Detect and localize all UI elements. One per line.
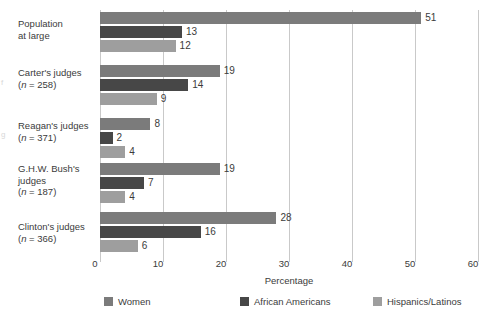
bar-women-group-2 [100, 118, 150, 130]
bar-value-african-group-0: 13 [186, 26, 197, 38]
legend-label-african-americans: African Americans [254, 296, 331, 307]
plot-area: 51131219149824197428166 [100, 10, 478, 256]
legend-item-hispanics-latinos[interactable]: Hispanics/Latinos [373, 296, 461, 307]
bar-women-group-4 [100, 212, 276, 224]
x-tick-label-60: 60 [468, 258, 479, 269]
legend-item-women[interactable]: Women [104, 296, 151, 307]
category-line: judges [18, 175, 96, 187]
bar-value-hispanic-group-0: 12 [180, 40, 191, 52]
bar-value-women-group-2: 8 [154, 118, 160, 130]
category-n-value: = 366 [29, 233, 53, 244]
legend-swatch-women [104, 297, 113, 306]
bar-hispanic-group-3 [100, 191, 125, 203]
category-n-value: = 187 [29, 186, 53, 197]
bar-value-women-group-4: 28 [280, 212, 291, 224]
bar-value-women-group-1: 19 [224, 65, 235, 77]
bar-value-women-group-0: 51 [425, 12, 436, 24]
category-n-value: = 371 [29, 132, 53, 143]
bar-hispanic-group-4 [100, 240, 138, 252]
x-tick-label-10: 10 [153, 258, 164, 269]
bar-value-hispanic-group-3: 4 [129, 191, 135, 203]
bar-hispanic-group-0 [100, 40, 176, 52]
category-label-population: Population at large [18, 18, 96, 41]
x-tick-label-20: 20 [216, 258, 227, 269]
legend: Women African Americans Hispanics/Latino… [0, 296, 488, 310]
bar-african-group-2 [100, 132, 113, 144]
category-line: Population [18, 18, 96, 30]
legend-item-african-americans[interactable]: African Americans [240, 296, 331, 307]
bar-value-african-group-3: 7 [148, 177, 154, 189]
bar-african-group-0 [100, 26, 182, 38]
category-line: G.H.W. Bush's [18, 163, 96, 175]
x-tick-label-30: 30 [279, 258, 290, 269]
category-line: Reagan's judges [18, 120, 96, 132]
edge-artifact-mark-2: g [1, 130, 5, 139]
x-tick-label-0: 0 [92, 258, 97, 269]
gridline-60 [478, 10, 479, 256]
legend-label-women: Women [118, 296, 151, 307]
bar-value-hispanic-group-2: 4 [129, 146, 135, 158]
gridline-50 [415, 10, 416, 256]
legend-swatch-african-americans [240, 297, 249, 306]
category-label-clinton: Clinton's judges (n = 366) [18, 221, 96, 244]
bar-women-group-1 [100, 65, 220, 77]
gridline-40 [352, 10, 353, 256]
category-n-label: (n = 371) [18, 132, 96, 144]
bar-value-hispanic-group-1: 9 [161, 93, 167, 105]
category-label-bush: G.H.W. Bush's judges (n = 187) [18, 163, 96, 198]
bar-women-group-3 [100, 163, 220, 175]
edge-artifact-mark-1: f [1, 78, 3, 87]
x-tick-mark-0 [100, 256, 101, 262]
bar-value-african-group-4: 16 [205, 226, 216, 238]
category-line: at large [18, 30, 96, 42]
legend-label-hispanics-latinos: Hispanics/Latinos [387, 296, 461, 307]
category-n-label: (n = 187) [18, 186, 96, 198]
category-n-label: (n = 366) [18, 233, 96, 245]
x-tick-label-40: 40 [342, 258, 353, 269]
bar-value-women-group-3: 19 [224, 163, 235, 175]
category-n-label: (n = 258) [18, 79, 96, 91]
category-line: Carter's judges [18, 67, 96, 79]
bar-women-group-0 [100, 12, 421, 24]
bar-value-hispanic-group-4: 6 [142, 240, 148, 252]
x-tick-label-50: 50 [405, 258, 416, 269]
bar-chart: f g Population at large Carter's judges … [0, 0, 488, 327]
bar-african-group-4 [100, 226, 201, 238]
bar-african-group-1 [100, 79, 188, 91]
bar-hispanic-group-2 [100, 146, 125, 158]
bar-value-african-group-1: 14 [192, 79, 203, 91]
x-axis-title: Percentage [100, 275, 478, 286]
category-label-reagan: Reagan's judges (n = 371) [18, 120, 96, 143]
category-line: Clinton's judges [18, 221, 96, 233]
bar-african-group-3 [100, 177, 144, 189]
category-n-value: = 258 [29, 79, 53, 90]
bar-hispanic-group-1 [100, 93, 157, 105]
bar-value-african-group-2: 2 [117, 132, 123, 144]
category-label-carter: Carter's judges (n = 258) [18, 67, 96, 90]
legend-swatch-hispanics-latinos [373, 297, 382, 306]
